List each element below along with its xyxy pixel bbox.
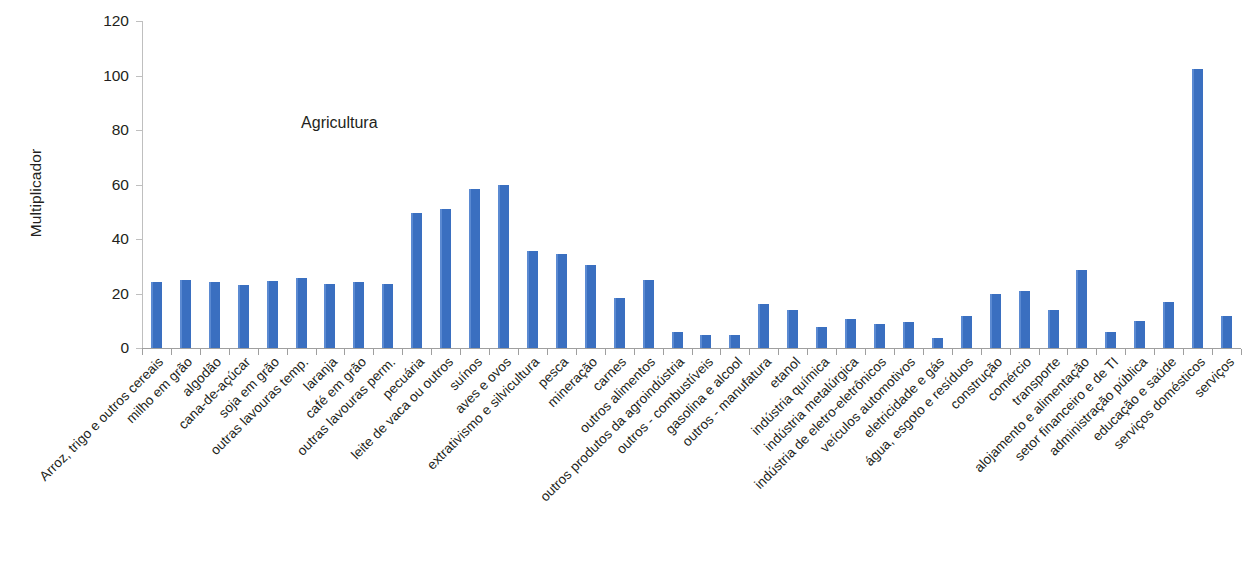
bar [1221,316,1232,348]
bar [585,265,596,348]
bar [324,284,335,348]
x-axis-tick [1212,349,1213,355]
x-axis-tick-label: leite de vaca ou outros [163,354,456,564]
bar [1105,332,1116,348]
x-axis-tick-label: cana-de-açúcar [0,354,254,564]
bar [296,278,307,348]
x-axis-tick-label: indústria metalúrgica [567,354,860,564]
bar [556,254,567,348]
x-axis-tick [923,349,924,355]
bar-chart: Multiplicador 020406080100120 Arroz, tri… [0,0,1249,564]
x-axis-tick-label: serviços [943,354,1236,564]
x-axis-tick [1125,349,1126,355]
x-axis-tick-label: outros produtos da agroindústria [394,354,687,564]
x-axis-tick [431,349,432,355]
x-axis-tick-label: indústria química [538,354,831,564]
bar [527,251,538,348]
y-axis-tick-label: 0 [39,339,129,357]
x-axis-tick-label: outras lavouras perm. [105,354,398,564]
bar [440,209,451,348]
bar [209,282,220,348]
bars-container [142,21,1241,348]
bar [498,185,509,348]
bar [469,189,480,348]
x-axis-tick [778,349,779,355]
x-axis-tick-label: laranja [47,354,340,564]
x-axis-tick-label: outros alimentos [365,354,658,564]
bar [787,310,798,348]
bar [1048,310,1059,348]
x-axis-tick-label: construção [712,354,1005,564]
x-axis-tick [720,349,721,355]
bar [932,338,943,348]
x-axis-tick-label: Arroz, trigo e outros cereais [0,354,167,564]
x-axis-tick-label: serviços domésticos [914,354,1207,564]
x-axis-tick-label: outros - combustíveis [423,354,716,564]
x-axis-tick [952,349,953,355]
y-axis-tick-label: 120 [39,12,129,30]
x-axis-tick [316,349,317,355]
bar [1076,270,1087,348]
x-axis-tick [1067,349,1068,355]
x-axis-tick [258,349,259,355]
bar [874,324,885,348]
x-axis-tick [518,349,519,355]
x-axis-tick-label: mineração [307,354,600,564]
x-axis-tick-label: transporte [770,354,1063,564]
x-axis-tick-label: outros - manufatura [481,354,774,564]
x-axis-tick [894,349,895,355]
bar [758,304,769,348]
x-axis-tick [402,349,403,355]
x-axis-tick [1039,349,1040,355]
x-axis-tick [344,349,345,355]
x-axis-tick-label: soja em grão [0,354,282,564]
x-axis-tick [1154,349,1155,355]
bar [614,298,625,348]
x-axis-tick-label: etanol [510,354,803,564]
bar [238,285,249,348]
x-axis-tick [1010,349,1011,355]
bar [411,213,422,348]
x-axis-tick-label: indústria de eletro-eletrônicos [596,354,889,564]
x-axis-tick [865,349,866,355]
x-axis-tick [460,349,461,355]
x-axis-tick [981,349,982,355]
bar [180,280,191,348]
bar [382,284,393,348]
x-axis-tick-label: comércio [741,354,1034,564]
bar [353,282,364,348]
x-axis-tick-label: carnes [336,354,629,564]
bar [700,335,711,348]
bar [1192,69,1203,348]
y-axis-tick-label: 40 [39,230,129,248]
x-axis-tick-label: gasolina e alcool [452,354,745,564]
x-axis-tick-label: café em grão [76,354,369,564]
bar [267,281,278,348]
x-axis-tick [576,349,577,355]
x-axis-tick-label: veículos automotivos [625,354,918,564]
x-axis-tick-label: administração pública [857,354,1150,564]
x-axis-tick-label: educação e saúde [886,354,1179,564]
bar [151,282,162,348]
x-axis-tick-label: algodão [0,354,225,564]
x-axis-tick [200,349,201,355]
chart-annotation-label: Agricultura [301,114,377,132]
x-axis-tick [142,349,143,355]
x-axis-tick [692,349,693,355]
x-axis-tick-label: pecuária [134,354,427,564]
x-axis-tick [1241,349,1242,355]
x-axis-tick-label: extrativismo e silvicultura [249,354,542,564]
bar [672,332,683,348]
bar [845,319,856,348]
bar [816,327,827,348]
x-axis-tick-label: suínos [191,354,484,564]
bar [1163,302,1174,348]
bar [1134,321,1145,348]
x-axis-tick [836,349,837,355]
x-axis-tick-label: água, esgoto e resíduos [683,354,976,564]
x-axis-tick-label: outras lavouras temp. [18,354,311,564]
y-axis-tick-label: 20 [39,285,129,303]
x-axis-tick-label: milho em grão [0,354,196,564]
y-axis-tick-label: 100 [39,67,129,85]
bar [961,316,972,348]
